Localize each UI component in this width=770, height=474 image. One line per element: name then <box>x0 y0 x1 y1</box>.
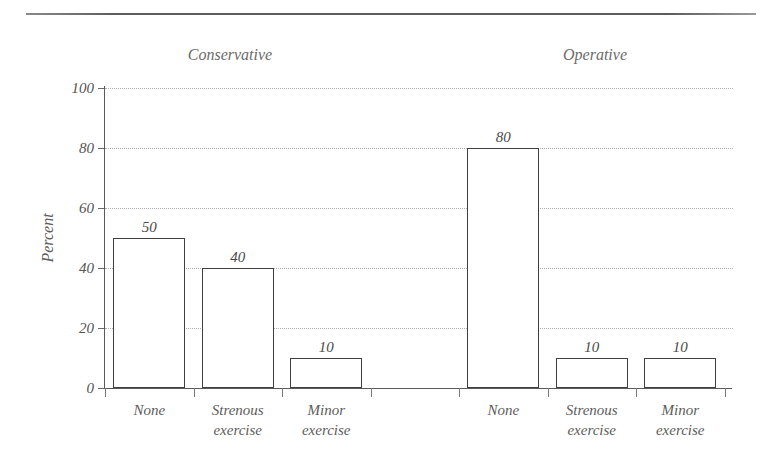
y-tick-label-100: 100 <box>72 80 95 97</box>
x-tick-7 <box>725 388 726 397</box>
x-category-label-line2: exercise <box>192 420 284 440</box>
chart-figure: Conservative Operative Percent 020406080… <box>0 0 770 474</box>
y-tick-label-20: 20 <box>79 320 94 337</box>
bar[interactable]: 10 <box>290 358 362 388</box>
x-category-label-line2: exercise <box>546 420 638 440</box>
x-tick-6 <box>636 388 637 397</box>
x-tick-2 <box>282 388 283 397</box>
group-title-operative: Operative <box>515 46 675 64</box>
x-category-label: Strenousexercise <box>192 400 284 441</box>
x-category-label: None <box>103 400 195 420</box>
gridline-60 <box>105 208 733 209</box>
x-category-label-line1: Minor <box>662 402 700 418</box>
bar[interactable]: 80 <box>467 148 539 388</box>
x-category-label-line1: Strenous <box>566 402 618 418</box>
x-tick-3 <box>371 388 372 397</box>
x-tick-4 <box>459 388 460 397</box>
bar-value-label: 10 <box>673 339 688 356</box>
x-category-label-line1: None <box>133 402 165 418</box>
gridline-20 <box>105 328 733 329</box>
y-tick-label-40: 40 <box>79 260 94 277</box>
gridline-80 <box>105 148 733 149</box>
x-category-label: Minorexercise <box>280 400 372 441</box>
x-axis-line <box>104 388 732 389</box>
bar-value-label: 80 <box>496 129 511 146</box>
x-category-label: None <box>457 400 549 420</box>
x-category-label-line2: exercise <box>634 420 726 440</box>
bar-value-label: 10 <box>319 339 334 356</box>
y-axis-line <box>104 86 105 389</box>
y-tick-label-0: 0 <box>87 380 95 397</box>
header-divider <box>26 13 756 15</box>
x-tick-5 <box>548 388 549 397</box>
x-tick-1 <box>194 388 195 397</box>
x-tick-0 <box>105 388 106 397</box>
x-category-label-line1: None <box>487 402 519 418</box>
bar-value-label: 40 <box>230 249 245 266</box>
bar[interactable]: 10 <box>644 358 716 388</box>
y-tick-label-60: 60 <box>79 200 94 217</box>
gridline-40 <box>105 268 733 269</box>
bar[interactable]: 10 <box>556 358 628 388</box>
bar[interactable]: 50 <box>113 238 185 388</box>
bar-value-label: 50 <box>142 219 157 236</box>
y-tick-label-80: 80 <box>79 140 94 157</box>
x-category-label-line1: Minor <box>308 402 346 418</box>
x-category-label: Minorexercise <box>634 400 726 441</box>
x-category-label-line1: Strenous <box>212 402 264 418</box>
bar[interactable]: 40 <box>202 268 274 388</box>
y-axis-title: Percent <box>39 213 57 262</box>
group-title-conservative: Conservative <box>150 46 310 64</box>
gridline-100 <box>105 88 733 89</box>
x-category-label-line2: exercise <box>280 420 372 440</box>
bar-value-label: 10 <box>584 339 599 356</box>
plot-area: 020406080100 504010801010 <box>105 88 733 388</box>
x-category-label: Strenousexercise <box>546 400 638 441</box>
